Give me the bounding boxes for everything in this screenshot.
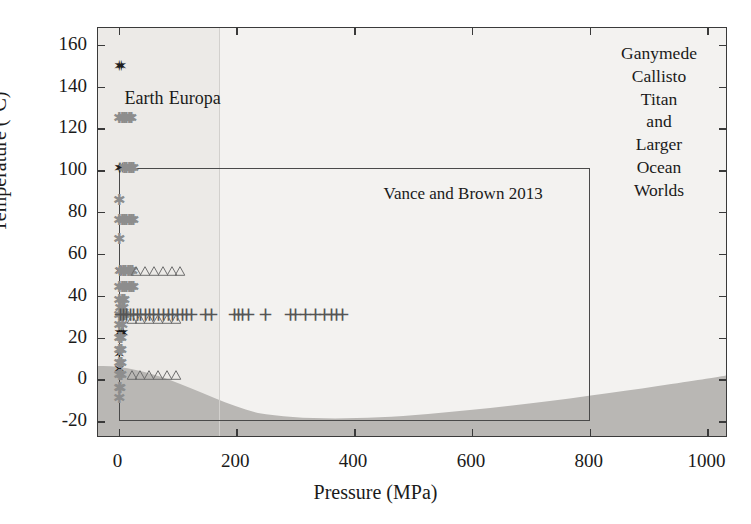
x-tick: [590, 429, 591, 437]
y-tick: [97, 128, 105, 129]
y-tick-label: 40: [2, 284, 87, 306]
y-tick-label: 0: [2, 367, 87, 389]
y-tick: [97, 379, 105, 380]
x-tick-top: [472, 27, 473, 35]
x-tick-top: [354, 27, 355, 35]
y-tick-right: [719, 212, 727, 213]
figure-container: Temperature (°C) -2002040608010012014016…: [0, 0, 751, 524]
y-tick-right: [719, 87, 727, 88]
y-tick-right: [719, 379, 727, 380]
x-axis-title: Pressure (MPa): [0, 481, 751, 504]
y-tick-right: [719, 45, 727, 46]
x-tick: [472, 429, 473, 437]
x-tick: [119, 429, 120, 437]
y-tick: [97, 45, 105, 46]
marker-plus: ＋: [335, 307, 350, 322]
y-tick: [97, 254, 105, 255]
marker-asterisk: ✱: [113, 192, 126, 207]
marker-asterisk: ✱: [113, 232, 126, 247]
marker-plus: ＋: [258, 307, 273, 322]
marker-asterisk: ✱: [127, 161, 140, 176]
plot-area: Vance and Brown 2013 Ganymede Callisto T…: [97, 27, 727, 437]
y-tick-right: [719, 254, 727, 255]
marker-filled-star: ✶: [115, 58, 128, 73]
y-tick-label: 100: [2, 158, 87, 180]
y-tick-right: [719, 338, 727, 339]
marker-triangle: [170, 370, 181, 380]
x-tick-top: [119, 27, 120, 35]
x-tick-label: 400: [339, 450, 368, 472]
y-tick-right: [719, 296, 727, 297]
marker-triangle: [170, 314, 181, 324]
y-tick-label: -20: [2, 409, 87, 431]
y-tick-label: 140: [2, 75, 87, 97]
y-tick-label: 80: [2, 200, 87, 222]
x-tick: [354, 429, 355, 437]
x-tick-top: [707, 27, 708, 35]
y-tick-label: 120: [2, 116, 87, 138]
x-tick: [236, 429, 237, 437]
y-tick-label: 60: [2, 242, 87, 264]
y-tick: [97, 421, 105, 422]
x-tick-top: [590, 27, 591, 35]
marker-plus: ＋: [241, 307, 256, 322]
y-tick: [97, 170, 105, 171]
marker-triangle: [175, 266, 186, 276]
x-tick-label: 0: [113, 450, 123, 472]
y-tick-right: [719, 170, 727, 171]
y-tick: [97, 212, 105, 213]
marker-asterisk: ✱: [113, 391, 126, 406]
y-tick: [97, 87, 105, 88]
x-tick-label: 200: [221, 450, 250, 472]
y-tick-label: 20: [2, 326, 87, 348]
data-markers-layer: ✶✶✶✶✶✶✶✶✶✶✶✶✶✶✶✶✱✱✱✱✱✱✱✱✱✱✱✱✱✱✱✱✱✱✱✱✱✱✱✱…: [98, 28, 727, 437]
marker-asterisk: ✱: [125, 110, 138, 125]
y-tick-label: 160: [2, 33, 87, 55]
y-tick: [97, 338, 105, 339]
x-tick-label: 800: [574, 450, 603, 472]
x-tick-label: 600: [457, 450, 486, 472]
y-tick-right: [719, 128, 727, 129]
marker-plus: ＋: [184, 307, 199, 322]
y-tick-right: [719, 421, 727, 422]
marker-asterisk: ✱: [127, 213, 140, 228]
y-tick: [97, 296, 105, 297]
x-tick-label: 1000: [687, 450, 725, 472]
x-tick: [707, 429, 708, 437]
marker-plus: ＋: [204, 307, 219, 322]
x-tick-top: [236, 27, 237, 35]
